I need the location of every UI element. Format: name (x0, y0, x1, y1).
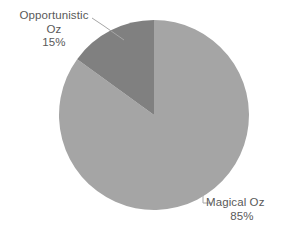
pie-label-opportunistic-oz-line2: Oz (0, 23, 108, 37)
pie-label-opportunistic-oz-percent: 15% (0, 36, 108, 50)
pie-label-magical-oz: Magical Oz 85% (206, 196, 288, 223)
pie-label-magical-oz-name: Magical Oz (206, 196, 288, 210)
pie-label-opportunistic-oz-line1: Opportunistic (0, 9, 108, 23)
pie-chart-figure: Opportunistic Oz 15% Magical Oz 85% (0, 0, 288, 236)
pie-label-opportunistic-oz: Opportunistic Oz 15% (0, 9, 108, 50)
pie-label-magical-oz-percent: 85% (206, 210, 278, 224)
